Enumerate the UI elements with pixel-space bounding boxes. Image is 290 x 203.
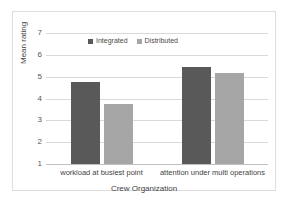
- bar-integrated-1: [182, 67, 211, 164]
- bar-integrated-0: [71, 82, 100, 164]
- y-axis-tick-7: 7: [38, 29, 42, 37]
- gridline: [46, 33, 268, 34]
- bar-distributed-0: [104, 104, 133, 164]
- x-axis-title: Crew Organization: [13, 184, 275, 193]
- gridline: [46, 55, 268, 56]
- y-axis-tick-2: 2: [38, 138, 42, 146]
- chart-container: Mean rating Integrated Distributed 76543…: [12, 11, 276, 191]
- x-axis-line: [46, 164, 268, 165]
- y-axis-title: Mean rating: [19, 22, 28, 64]
- y-axis-tick-1: 1: [38, 160, 42, 168]
- x-axis-category-0: workload at busiest point: [46, 168, 157, 177]
- bar-distributed-1: [215, 73, 244, 164]
- y-axis-tick-5: 5: [38, 73, 42, 81]
- plot-area: 7654321: [46, 33, 268, 164]
- y-axis-tick-6: 6: [38, 51, 42, 59]
- x-axis-category-1: attention under multi operations: [157, 168, 268, 177]
- y-axis-tick-3: 3: [38, 116, 42, 124]
- y-axis-tick-4: 4: [38, 95, 42, 103]
